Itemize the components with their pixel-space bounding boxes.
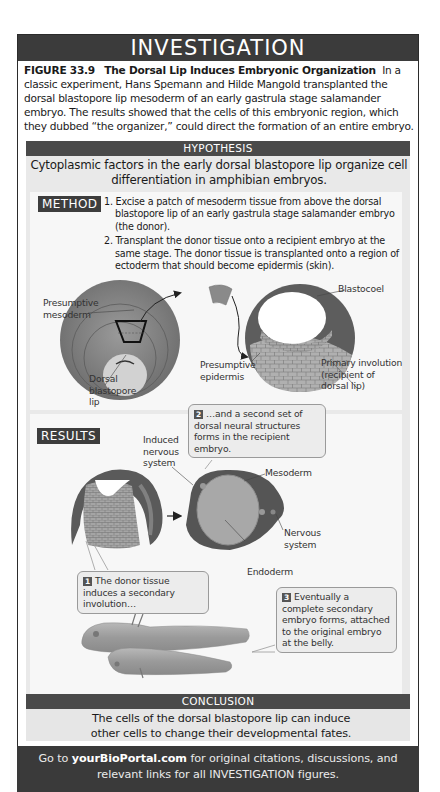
callout-3-text: Eventually a complete secondary embryo f… bbox=[282, 591, 390, 648]
results-illustration bbox=[0, 0, 440, 792]
callout-number-3: 3 bbox=[282, 593, 291, 602]
callout-number-2: 2 bbox=[194, 410, 203, 419]
endoderm bbox=[197, 475, 259, 545]
conclusion-text: The cells of the dorsal blastopore lip c… bbox=[80, 711, 362, 741]
secondary-embryo bbox=[108, 648, 232, 675]
label-induced-nervous-system: Induced nervous system bbox=[143, 434, 179, 469]
callout-number-1: 1 bbox=[83, 577, 92, 586]
callout-2: 2…and a second set of dorsal neural stru… bbox=[188, 404, 326, 458]
callout-2-text: …and a second set of dorsal neural struc… bbox=[194, 408, 302, 454]
callout-3: 3Eventually a complete secondary embryo … bbox=[276, 587, 397, 653]
label-endoderm: Endoderm bbox=[247, 566, 293, 578]
footer-prefix: Go to bbox=[38, 752, 68, 765]
callout-1-text: The donor tissue induces a secondary inv… bbox=[83, 575, 175, 609]
original-embryo bbox=[82, 623, 250, 652]
bioportal-link[interactable]: yourBioPortal.com bbox=[72, 752, 187, 765]
conclusion-header: CONCLUSION bbox=[26, 694, 410, 709]
footer-banner: Go to yourBioPortal.com for original cit… bbox=[17, 746, 419, 792]
label-mesoderm: Mesoderm bbox=[265, 467, 312, 479]
callout-1: 1The donor tissue induces a secondary in… bbox=[77, 571, 209, 614]
label-nervous-system: Nervous system bbox=[284, 527, 321, 550]
